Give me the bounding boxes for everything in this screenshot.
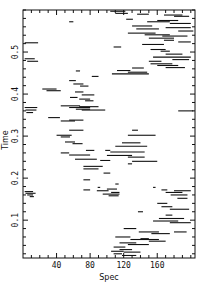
y-axis-ticks bbox=[23, 10, 195, 254]
x-tick-label: 160 bbox=[150, 261, 165, 270]
x-tick-label: 40 bbox=[52, 261, 62, 270]
y-axis-label: Time bbox=[1, 130, 10, 151]
y-tick-labels: 0.10.20.30.40.5 bbox=[11, 45, 20, 228]
x-tick-labels: 4080120160 bbox=[52, 261, 165, 270]
y-tick-label: 0.3 bbox=[11, 129, 20, 144]
x-axis-label: Spec bbox=[99, 273, 118, 282]
y-tick-label: 0.5 bbox=[11, 45, 20, 60]
y-tick-label: 0.1 bbox=[11, 213, 20, 228]
x-tick-label: 120 bbox=[116, 261, 131, 270]
data-segments bbox=[25, 11, 194, 255]
y-tick-label: 0.4 bbox=[11, 87, 20, 102]
y-tick-label: 0.2 bbox=[11, 171, 20, 186]
x-tick-label: 80 bbox=[85, 261, 95, 270]
segment-plot: 4080120160 0.10.20.30.40.5 Spec Time bbox=[0, 0, 202, 284]
